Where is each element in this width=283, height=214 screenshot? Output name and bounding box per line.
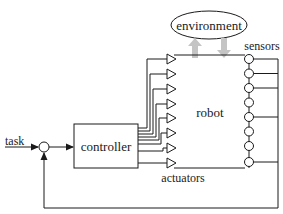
sensor-icon (245, 98, 254, 107)
environment-node: environment (171, 11, 247, 39)
sensor-icon (245, 142, 254, 151)
task-label: task (5, 134, 24, 148)
sensor-icon (245, 84, 254, 93)
actuator-icon (167, 113, 176, 123)
actuator-wiring (138, 59, 167, 163)
sensors-label: sensors (244, 39, 280, 53)
sensor-icon (245, 69, 254, 78)
actuator-icon (167, 128, 176, 138)
summing-junction (39, 142, 49, 152)
sensor-icon (245, 158, 254, 167)
actuator-icon (167, 143, 176, 153)
controller-label: controller (81, 139, 132, 154)
robot-node: robot (174, 55, 245, 168)
actuators-group (167, 54, 176, 168)
environment-label: environment (176, 18, 242, 33)
sensors-group (245, 55, 254, 169)
sensor-icon (245, 55, 254, 64)
controller-node: controller (74, 124, 138, 168)
robot-label: robot (196, 105, 224, 120)
sensor-feedback-wiring (254, 59, 279, 208)
actuator-icon (167, 99, 176, 109)
actuators-label: actuators (161, 171, 205, 185)
sensor-icon (245, 127, 254, 136)
actuator-icon (167, 158, 176, 168)
sensor-icon (245, 113, 254, 122)
actuator-icon (167, 69, 176, 79)
robot-control-diagram: environment sensors robot (0, 0, 283, 214)
actuator-icon (167, 84, 176, 94)
